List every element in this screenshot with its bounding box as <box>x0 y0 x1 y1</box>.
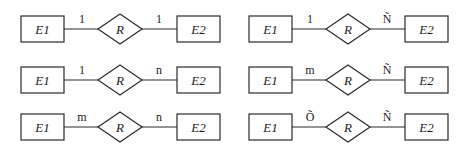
cardinality-left: Õ <box>306 110 315 124</box>
er-relationship-1: E1RE211 <box>21 12 220 44</box>
svg-text:E1: E1 <box>262 22 277 37</box>
relationship-diamond: R <box>326 65 370 95</box>
svg-text:E2: E2 <box>190 73 206 88</box>
svg-text:E1: E1 <box>34 120 49 135</box>
er-relationship-6: E1RE2ÕÑ <box>249 110 448 142</box>
er-relationship-5: E1RE2mÑ <box>249 63 448 95</box>
cardinality-right: Ñ <box>383 63 392 77</box>
cardinality-left: m <box>305 63 315 77</box>
svg-text:E1: E1 <box>34 73 49 88</box>
svg-text:E2: E2 <box>190 120 206 135</box>
relationship-diamond: R <box>98 65 142 95</box>
entity-right: E2 <box>177 16 220 42</box>
entity-left: E1 <box>21 16 64 42</box>
entity-right: E2 <box>405 67 448 93</box>
svg-text:E2: E2 <box>418 73 434 88</box>
entity-left: E1 <box>249 16 292 42</box>
svg-text:R: R <box>115 22 124 37</box>
cardinality-right: 1 <box>156 12 162 26</box>
relationship-diamond: R <box>98 112 142 142</box>
er-diagram-canvas: E1RE211E1RE21nE1RE2mnE1RE21ÑE1RE2mÑE1RE2… <box>0 0 471 151</box>
cardinality-right: n <box>156 63 162 77</box>
svg-text:R: R <box>115 120 124 135</box>
entity-left: E1 <box>249 114 292 140</box>
entity-right: E2 <box>405 16 448 42</box>
entity-right: E2 <box>177 114 220 140</box>
relationship-diamond: R <box>326 112 370 142</box>
entity-left: E1 <box>21 114 64 140</box>
cardinality-right: Ñ <box>383 110 392 124</box>
svg-text:R: R <box>115 73 124 88</box>
cardinality-left: 1 <box>79 12 85 26</box>
svg-text:R: R <box>343 22 352 37</box>
er-relationship-2: E1RE21n <box>21 63 220 95</box>
cardinality-right: n <box>156 110 162 124</box>
relationship-diamond: R <box>98 14 142 44</box>
svg-text:E1: E1 <box>34 22 49 37</box>
svg-text:E2: E2 <box>418 120 434 135</box>
svg-text:E2: E2 <box>418 22 434 37</box>
relationship-diamond: R <box>326 14 370 44</box>
entity-left: E1 <box>249 67 292 93</box>
svg-text:E2: E2 <box>190 22 206 37</box>
er-relationship-4: E1RE21Ñ <box>249 12 448 44</box>
entity-right: E2 <box>177 67 220 93</box>
svg-text:R: R <box>343 120 352 135</box>
svg-text:R: R <box>343 73 352 88</box>
cardinality-right: Ñ <box>383 12 392 26</box>
svg-text:E1: E1 <box>262 120 277 135</box>
entity-right: E2 <box>405 114 448 140</box>
svg-text:E1: E1 <box>262 73 277 88</box>
cardinality-left: m <box>77 110 87 124</box>
entity-left: E1 <box>21 67 64 93</box>
cardinality-left: 1 <box>79 63 85 77</box>
er-relationship-3: E1RE2mn <box>21 110 220 142</box>
cardinality-left: 1 <box>307 12 313 26</box>
